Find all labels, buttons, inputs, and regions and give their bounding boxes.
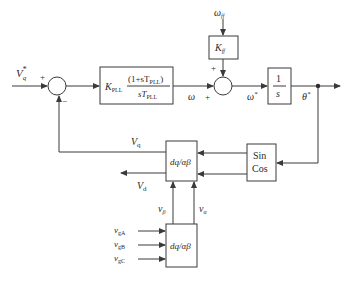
v-beta-label: vβ xyxy=(158,203,165,215)
vq-label: Vq xyxy=(131,136,141,149)
cos-label: Cos xyxy=(252,163,268,174)
omega-ff-label: ωff xyxy=(214,7,226,19)
integrator-denominator: s xyxy=(276,88,280,99)
sum2-plus-left-sign: + xyxy=(205,92,210,102)
omega-star-label: ω* xyxy=(247,90,258,102)
integrator-numerator: 1 xyxy=(276,73,281,84)
dq-alphabeta-upper-label: dq/αβ xyxy=(170,157,191,167)
theta-star-label: θ* xyxy=(302,90,311,102)
svg-text:Vq*: Vq* xyxy=(16,65,27,82)
sum1-plus-sign: + xyxy=(40,72,45,82)
sum1-minus-sign: − xyxy=(62,96,67,106)
dq-alphabeta-lower-label: dq/αβ xyxy=(170,241,191,251)
pll-block-diagram: Vq* + − KPLL (1+sTPLL) sTPLL ω + ωff Kff… xyxy=(0,0,346,283)
vgc-label: vgC xyxy=(114,253,125,264)
vga-label: vgA xyxy=(114,225,126,236)
vq-ref-label: Vq* xyxy=(16,65,27,82)
vgb-label: vgB xyxy=(114,239,125,250)
sin-label: Sin xyxy=(253,150,266,161)
omega-label: ω xyxy=(188,91,195,102)
v-alpha-label: vα xyxy=(199,203,207,215)
sum2-plus-top-sign: + xyxy=(211,63,216,73)
summing-junction-1 xyxy=(48,77,66,95)
vd-label: Vd xyxy=(137,180,147,193)
summing-junction-2 xyxy=(214,77,232,95)
